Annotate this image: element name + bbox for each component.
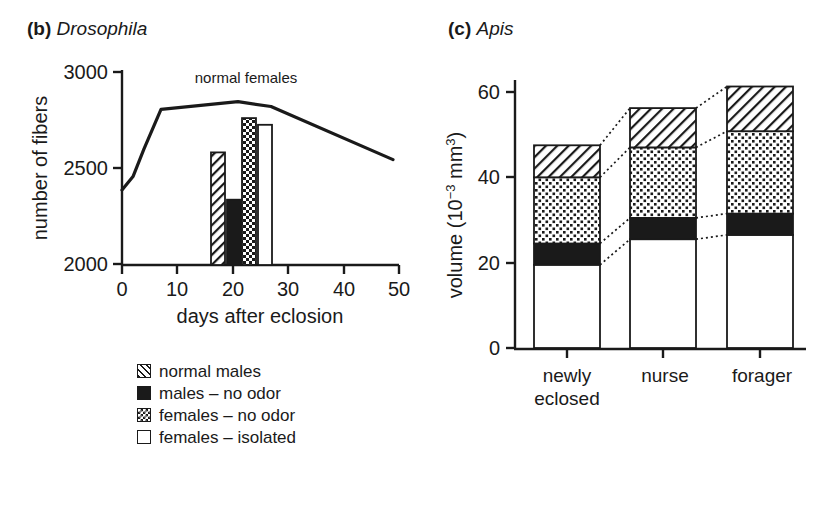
drosophila-plot: 3000 2500 2000 0 10 20 30 40 50 days aft… <box>0 0 430 350</box>
x-tick-label-30: 30 <box>277 278 299 300</box>
y-tick-label-40: 40 <box>478 166 500 188</box>
legend-swatch-hatch-icon <box>137 364 151 378</box>
x-axis-title-b: days after eclosion <box>177 305 344 327</box>
y-axis-title-c-exp1: −3 <box>443 185 458 200</box>
x-tick-label-40: 40 <box>333 278 355 300</box>
y-axis-title-c-exp2: 3 <box>443 138 458 145</box>
stacked-bar-newly-eclosed <box>534 145 600 348</box>
drosophila-legend: normal males males – no odor females – n… <box>137 360 296 448</box>
segment-peduncle-and-lobes-1 <box>534 265 600 348</box>
y-axis-title-c-mid: mm <box>444 146 466 185</box>
curve-annotation-normal-females: normal females <box>195 69 298 86</box>
cat-label-newly: newly <box>543 365 592 386</box>
segment-lip-3 <box>727 87 793 132</box>
legend-label-females-no-odor: females – no odor <box>159 407 295 424</box>
segment-lip-1 <box>534 145 600 177</box>
legend-label-males-no-odor: males – no odor <box>159 385 281 402</box>
segment-peduncle-and-lobes-3 <box>727 235 793 348</box>
panel-drosophila: (b) Drosophila 3000 2500 2000 <box>0 0 430 518</box>
y-axis-title-b: number of fibers <box>29 96 51 241</box>
bar-females-no-odor <box>242 118 256 265</box>
y-tick-label-2500: 2500 <box>64 157 109 179</box>
y-tick-label-20: 20 <box>478 252 500 274</box>
segment-lip-2 <box>630 108 696 147</box>
segment-basal-ring-1 <box>534 244 600 265</box>
apis-plot: 60 40 20 0 volume (10−3 mm3) newly eclos… <box>430 0 824 415</box>
stacked-bar-forager <box>727 87 793 349</box>
legend-swatch-solid-icon <box>137 386 151 400</box>
y-tick-label-0: 0 <box>489 337 500 359</box>
cat-label-forager: forager <box>732 365 793 386</box>
bar-normal-males <box>211 152 225 265</box>
x-tick-label-50: 50 <box>388 278 410 300</box>
legend-swatch-check-icon <box>137 408 151 422</box>
y-axis-title-c-main: volume (10 <box>444 199 466 298</box>
legend-item-normal-males: normal males <box>137 360 296 382</box>
segment-collar-3 <box>727 131 793 213</box>
panel-apis: (c) Apis 60 40 20 0 volume <box>430 0 824 518</box>
y-tick-label-3000: 3000 <box>64 61 109 83</box>
legend-label-females-isolated: females – isolated <box>159 429 296 446</box>
y-tick-label-60: 60 <box>478 81 500 103</box>
cat-label-nurse: nurse <box>641 365 689 386</box>
segment-basal-ring-2 <box>630 218 696 239</box>
segment-collar-1 <box>534 177 600 243</box>
bar-males-no-odor <box>227 200 241 265</box>
cat-label-eclosed: eclosed <box>534 388 600 409</box>
bar-females-isolated <box>258 125 272 265</box>
segment-collar-2 <box>630 147 696 218</box>
svg-text:volume (10−3 mm3): volume (10−3 mm3) <box>443 132 466 299</box>
y-tick-label-2000: 2000 <box>64 253 109 275</box>
x-tick-label-20: 20 <box>222 278 244 300</box>
segment-peduncle-and-lobes-2 <box>630 239 696 348</box>
x-tick-label-10: 10 <box>166 278 188 300</box>
legend-item-males-no-odor: males – no odor <box>137 382 296 404</box>
legend-item-females-isolated: females – isolated <box>137 426 296 448</box>
legend-swatch-open-icon <box>137 430 151 444</box>
segment-basal-ring-3 <box>727 214 793 235</box>
legend-label-normal-males: normal males <box>159 363 261 380</box>
stacked-bar-nurse <box>630 108 696 348</box>
y-axis-title-c: volume (10−3 mm3) <box>443 132 466 299</box>
y-axis-title-c-tail: ) <box>444 132 466 139</box>
legend-item-females-no-odor: females – no odor <box>137 404 296 426</box>
x-tick-label-0: 0 <box>116 278 127 300</box>
